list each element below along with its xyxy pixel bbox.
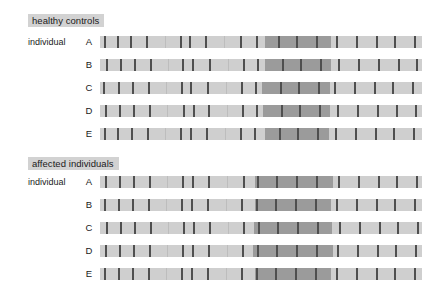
marker-tick	[378, 59, 380, 71]
marker-tick	[208, 105, 210, 117]
marker-tick	[357, 245, 359, 257]
marker-tick	[281, 105, 283, 117]
marker-tick	[377, 245, 379, 257]
marker-tick	[205, 36, 207, 48]
marker-tick	[276, 245, 278, 257]
marker-tick	[416, 176, 418, 188]
marker-tick	[224, 36, 225, 48]
marker-tick	[190, 82, 192, 94]
marker-tick	[339, 222, 341, 234]
marker-tick	[150, 59, 152, 71]
marker-tick	[296, 176, 298, 188]
marker-tick	[149, 176, 151, 188]
marker-tick	[118, 268, 120, 280]
marker-tick	[133, 245, 135, 257]
chromosome-track	[100, 105, 422, 117]
marker-tick	[225, 128, 226, 140]
marker-tick	[134, 222, 136, 234]
haplotype-row: B	[0, 59, 448, 71]
marker-tick	[226, 199, 227, 211]
marker-tick	[117, 128, 119, 140]
marker-tick	[298, 82, 300, 94]
marker-tick	[316, 36, 318, 48]
marker-tick	[257, 245, 259, 257]
marker-tick	[241, 82, 243, 94]
haplotype-row: A	[0, 176, 448, 188]
marker-tick	[355, 128, 357, 140]
marker-tick	[104, 128, 106, 140]
marker-tick	[130, 36, 132, 48]
marker-tick	[320, 59, 322, 71]
marker-tick	[337, 245, 339, 257]
marker-tick	[166, 82, 167, 94]
marker-tick	[167, 176, 168, 188]
marker-tick	[415, 245, 417, 257]
marker-tick	[414, 199, 416, 211]
marker-tick	[181, 199, 183, 211]
marker-tick	[192, 59, 194, 71]
row-label-individual-d: D	[84, 105, 94, 117]
marker-tick	[189, 36, 191, 48]
shared-haplotype-block	[254, 222, 332, 234]
marker-tick	[207, 82, 209, 94]
marker-tick	[167, 245, 168, 257]
marker-tick	[240, 128, 242, 140]
panel-title-affected-individuals: affected individuals	[28, 157, 119, 170]
marker-tick	[243, 59, 245, 71]
marker-tick	[295, 268, 297, 280]
haplotype-row: E	[0, 268, 448, 280]
marker-tick	[192, 245, 194, 257]
marker-tick	[132, 82, 134, 94]
marker-tick	[132, 268, 134, 280]
marker-tick	[276, 176, 278, 188]
marker-tick	[358, 59, 360, 71]
marker-tick	[356, 36, 358, 48]
marker-tick	[396, 105, 398, 117]
marker-tick	[392, 82, 394, 94]
shared-haplotype-block	[255, 176, 333, 188]
marker-tick	[228, 59, 229, 71]
marker-tick	[209, 222, 211, 234]
haplotype-row: C	[0, 222, 448, 234]
marker-tick	[256, 36, 258, 48]
marker-tick	[149, 245, 151, 257]
marker-tick	[182, 59, 184, 71]
marker-tick	[317, 222, 319, 234]
marker-tick	[317, 128, 319, 140]
marker-tick	[275, 268, 277, 280]
marker-tick	[296, 245, 298, 257]
marker-tick	[257, 176, 259, 188]
marker-tick	[168, 222, 169, 234]
marker-tick	[146, 36, 148, 48]
marker-tick	[334, 82, 336, 94]
marker-tick	[297, 128, 299, 140]
haplotype-figure: healthy controlsindividualABCDEaffected …	[0, 0, 448, 291]
marker-tick	[119, 245, 121, 257]
marker-tick	[279, 128, 281, 140]
row-label-individual-a: A	[84, 36, 94, 48]
marker-tick	[209, 59, 211, 71]
marker-tick	[315, 199, 317, 211]
marker-tick	[105, 245, 107, 257]
marker-tick	[206, 128, 208, 140]
marker-tick	[254, 128, 256, 140]
marker-tick	[412, 82, 414, 94]
marker-tick	[374, 82, 376, 94]
marker-tick	[120, 59, 122, 71]
marker-tick	[397, 222, 399, 234]
marker-tick	[243, 222, 245, 234]
marker-tick	[193, 222, 195, 234]
marker-tick	[168, 59, 169, 71]
marker-tick	[133, 105, 135, 117]
marker-tick	[118, 199, 120, 211]
marker-tick	[241, 268, 243, 280]
marker-tick	[278, 36, 280, 48]
marker-tick	[318, 82, 320, 94]
marker-tick	[417, 222, 419, 234]
marker-tick	[414, 36, 416, 48]
marker-tick	[134, 59, 136, 71]
marker-tick	[149, 105, 151, 117]
marker-tick	[396, 176, 398, 188]
marker-tick	[394, 199, 396, 211]
marker-tick	[105, 176, 107, 188]
